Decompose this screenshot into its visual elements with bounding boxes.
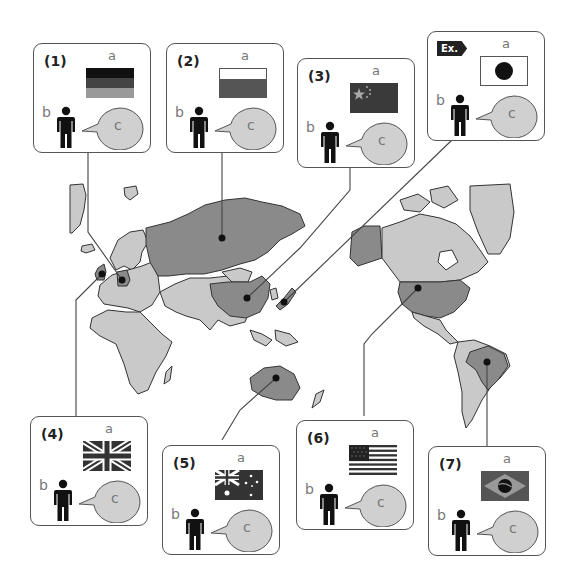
card-number: (4) [41,426,64,442]
brazil-flag-icon [481,471,529,501]
dot-australia [273,375,280,382]
card-example: Ex. a b c [427,31,545,141]
russia-flag-icon [219,68,267,98]
person-label: b [39,477,48,493]
person-icon [184,508,206,550]
person-icon [450,509,472,551]
dot-china [244,295,251,302]
speech-bubble-icon [209,508,275,552]
dot-brazil [484,359,491,366]
greenland-west [70,184,86,233]
usa-flag-icon [349,445,397,475]
person-label: b [305,481,314,497]
alaska [350,226,382,266]
card-number: (1) [44,53,67,69]
dot-russia [219,235,226,242]
usa-land [398,280,470,318]
speech-bubble-icon [77,479,143,523]
china-flag-icon [350,83,398,113]
canada [382,214,488,282]
speech-label: c [114,117,122,133]
card-3: (3) a b c [297,58,415,168]
speech-bubble-icon [343,483,409,527]
card-7: (7) a b c [428,446,546,556]
flag-label: a [371,425,379,440]
card-1: (1) a b c [33,43,151,153]
dot-uk [99,271,106,278]
card-number: (6) [307,430,330,446]
speech-bubble-icon [80,106,146,150]
dot-usa [415,285,422,292]
speech-bubble-icon [475,509,541,553]
person-label: b [171,506,180,522]
person-icon [52,479,74,521]
person-icon [55,106,77,148]
card-number: (2) [177,53,200,69]
card-number: (3) [308,68,331,84]
australia-flag-icon [215,470,263,500]
card-number: Ex. [437,41,467,56]
japan-flag-icon [480,56,528,86]
speech-bubble-icon [474,94,540,138]
card-number: (5) [173,455,196,471]
japan-land [276,288,296,310]
speech-bubble-icon [213,106,279,150]
flag-label: a [108,48,116,63]
flag-label: a [237,450,245,465]
person-icon [318,483,340,525]
europe [98,262,160,312]
flag-label: a [241,48,249,63]
person-icon [449,94,471,136]
card-4: (4) a b c [30,416,148,526]
uk-flag-icon [83,441,131,471]
flag-label: a [105,421,113,436]
flag-label: a [372,63,380,78]
person-label: b [175,104,184,120]
speech-label: c [509,520,517,536]
flag-label: a [502,36,510,51]
africa [90,310,172,394]
card-6: (6) a b c [296,420,414,530]
greenland-east [470,184,514,254]
speech-bubble-icon [344,121,410,165]
germany-flag-icon [86,68,134,98]
dot-japan [281,299,288,306]
person-label: b [306,119,315,135]
scandinavia [110,230,148,270]
card-2: (2) a b c [166,43,284,153]
person-icon [188,106,210,148]
person-label: b [437,507,446,523]
speech-label: c [377,494,385,510]
card-5: (5) a b c [162,445,280,555]
dot-germany [119,277,126,284]
speech-label: c [247,117,255,133]
speech-label: c [111,490,119,506]
person-label: b [42,104,51,120]
card-number: (7) [439,456,462,472]
person-icon [319,121,341,163]
flag-label: a [503,451,511,466]
russia-land [146,198,305,276]
speech-label: c [243,519,251,535]
person-label: b [436,92,445,108]
iceland [81,244,95,253]
speech-label: c [508,105,516,121]
speech-label: c [378,132,386,148]
